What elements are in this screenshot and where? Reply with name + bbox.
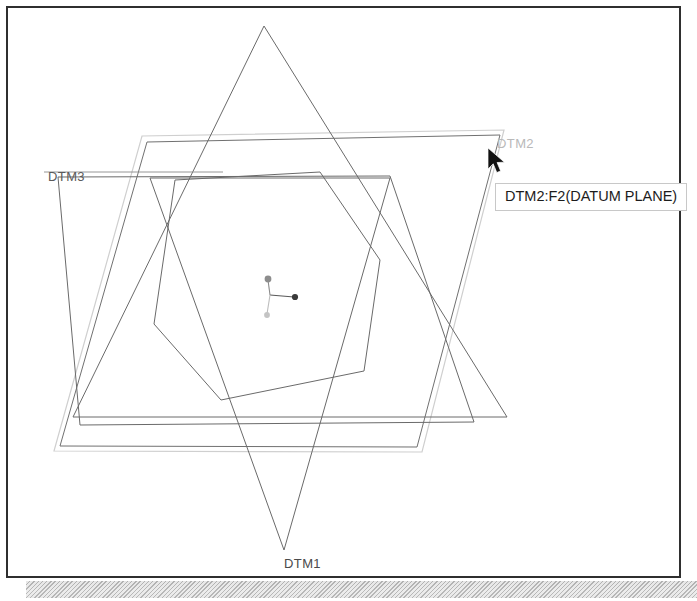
datum-plane-tooltip: DTM2:F2(DATUM PLANE): [495, 183, 687, 211]
datum-plane-dtm1[interactable]: [73, 26, 507, 550]
csys-axis-x-endpoint-dot: [292, 294, 298, 300]
datum-label-dtm3[interactable]: DTM3: [48, 169, 85, 184]
datum-plane-dtm1-triangle-down[interactable]: [150, 178, 390, 550]
csys-axis-z-endpoint-dot: [264, 312, 270, 318]
page-edge-shadow-strip: [26, 581, 697, 598]
datum-label-dtm1[interactable]: DTM1: [284, 556, 321, 571]
drawing-frame: DTM1 DTM3 DTM2 DTM2:F2(DATUM PLANE): [6, 6, 681, 578]
datum-plane-dtm1-hexagon[interactable]: [154, 172, 380, 400]
csys-axis-y-endpoint-dot: [265, 276, 272, 283]
scanned-page-background: DTM1 DTM3 DTM2 DTM2:F2(DATUM PLANE): [0, 0, 697, 601]
datum-plane-dtm2-outline[interactable]: [60, 135, 500, 447]
csys-axis-z-line: [267, 295, 270, 314]
coordinate-system-marker[interactable]: [264, 276, 298, 318]
datum-label-dtm2[interactable]: DTM2: [497, 136, 534, 151]
datum-plane-dtm1-triangle-up[interactable]: [73, 26, 507, 417]
csys-axis-x-line: [270, 295, 294, 297]
cad-viewport[interactable]: [8, 8, 679, 576]
